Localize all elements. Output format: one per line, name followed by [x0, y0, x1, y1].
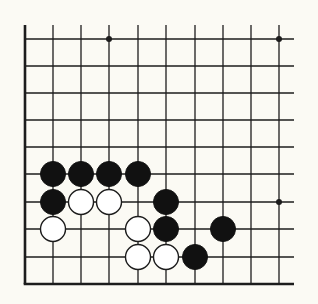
white-stone: [154, 245, 179, 270]
star-point: [276, 36, 282, 42]
black-stone: [126, 162, 151, 187]
black-stone: [154, 190, 179, 215]
star-point: [106, 36, 112, 42]
white-stone: [69, 190, 94, 215]
black-stone: [154, 217, 179, 242]
grid-lines: [24, 25, 294, 284]
white-stone: [126, 217, 151, 242]
white-stone: [126, 245, 151, 270]
white-stone: [41, 217, 66, 242]
go-board: [0, 0, 318, 304]
black-stone: [97, 162, 122, 187]
black-stone: [41, 162, 66, 187]
black-stone: [41, 190, 66, 215]
black-stone: [183, 245, 208, 270]
black-stone: [211, 217, 236, 242]
star-point: [276, 199, 282, 205]
black-stone: [69, 162, 94, 187]
white-stone: [97, 190, 122, 215]
